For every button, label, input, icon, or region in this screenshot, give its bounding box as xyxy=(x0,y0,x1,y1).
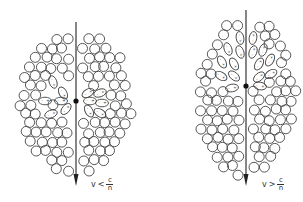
svg-text:-: - xyxy=(236,48,241,52)
atom-circle xyxy=(21,108,31,118)
atom-circle xyxy=(19,91,29,101)
panel-v-greater-than-c-over-n: -+-+-+-+-+-+-+-+-+-+-+-+-+-+-+-+ xyxy=(195,10,300,186)
atom-circle xyxy=(201,76,211,86)
svg-text:+: + xyxy=(221,74,226,80)
atom-circle xyxy=(265,95,275,105)
atom-circle xyxy=(275,41,285,51)
svg-text:-: - xyxy=(266,73,270,78)
svg-text:-: - xyxy=(250,39,255,42)
atom-circle xyxy=(265,133,275,143)
atom-circle xyxy=(233,96,243,106)
svg-text:+: + xyxy=(51,82,57,87)
svg-text:-: - xyxy=(41,98,43,103)
atom-circle xyxy=(208,142,218,152)
atom-circle xyxy=(222,21,232,31)
atom-circle xyxy=(222,114,232,124)
atom-circle xyxy=(217,142,227,152)
atom-circle xyxy=(286,114,296,124)
atom-circle xyxy=(196,124,206,134)
atom-circle xyxy=(207,106,217,116)
atom-circle xyxy=(24,62,34,72)
atom-circle xyxy=(53,128,63,138)
atom-circle xyxy=(36,118,46,128)
atom-circle xyxy=(84,166,94,176)
atom-circle xyxy=(259,162,269,172)
arrowhead-icon xyxy=(74,174,79,186)
atom-circle xyxy=(255,22,265,32)
polarized-atom: -+ xyxy=(215,54,228,69)
atom-circle xyxy=(25,80,35,90)
atom-circle xyxy=(63,34,73,44)
atom-circle xyxy=(196,68,206,78)
svg-text:+: + xyxy=(257,59,263,64)
atom-circle xyxy=(233,21,243,31)
svg-text:-: - xyxy=(266,60,271,64)
atom-circle xyxy=(83,72,93,82)
atom-circle xyxy=(31,146,41,156)
atom-circle xyxy=(48,138,58,148)
svg-text:-: - xyxy=(230,72,235,77)
atom-circle xyxy=(271,104,281,114)
svg-text:-: - xyxy=(83,92,87,97)
medium-atoms xyxy=(195,21,300,181)
polarized-atom: -+ xyxy=(263,52,276,67)
atom-circle xyxy=(104,71,114,81)
atom-circle xyxy=(30,52,40,62)
svg-text:+: + xyxy=(88,111,94,116)
polarized-atom: -+ xyxy=(253,81,267,91)
atom-circle xyxy=(281,124,291,134)
atom-circle xyxy=(79,118,89,128)
atom-circle xyxy=(90,44,100,54)
atom-circle xyxy=(80,137,90,147)
svg-text:-: - xyxy=(57,98,59,103)
atom-circle xyxy=(212,40,222,50)
svg-text:+: + xyxy=(258,72,264,78)
polarized-atom: -+ xyxy=(235,31,245,45)
comparison-operator: < xyxy=(98,180,105,189)
svg-text:+: + xyxy=(238,39,244,43)
atom-circle xyxy=(57,137,67,147)
svg-text:-: - xyxy=(254,76,259,81)
atom-circle xyxy=(275,132,285,142)
atom-circle xyxy=(78,43,88,53)
denominator: n xyxy=(108,185,112,192)
svg-text:+: + xyxy=(65,104,71,110)
svg-text:+: + xyxy=(46,98,49,103)
atom-circle xyxy=(96,146,106,156)
polarized-atom: -+ xyxy=(247,45,259,60)
svg-text:-: - xyxy=(96,109,100,114)
atom-circle xyxy=(117,108,127,118)
atom-circle xyxy=(42,52,52,62)
atom-circle xyxy=(207,49,217,59)
svg-text:+: + xyxy=(226,49,232,54)
polarized-atom: -+ xyxy=(39,97,52,105)
denominator: n xyxy=(279,185,283,192)
atom-circle xyxy=(254,95,264,105)
atom-circle xyxy=(115,53,125,63)
atom-circle xyxy=(219,30,229,40)
atom-circle xyxy=(110,117,120,127)
polarized-atom: -+ xyxy=(55,97,68,105)
cherenkov-diagram: -+-+-+-+-+-+-+-+-+-+-+-+ -+-+-+-+-+-+-+-… xyxy=(0,0,303,202)
atom-circle xyxy=(223,96,233,106)
svg-text:+: + xyxy=(271,69,276,75)
condition-label-left: v < c n xyxy=(91,177,113,192)
polarized-atom: -+ xyxy=(44,108,59,120)
atom-circle xyxy=(281,69,291,79)
atom-circle xyxy=(254,152,264,162)
polarized-atom: -+ xyxy=(227,69,242,83)
svg-text:+: + xyxy=(268,55,274,60)
polarized-atom: -+ xyxy=(59,102,73,117)
svg-text:-: - xyxy=(218,57,223,61)
svg-text:-: - xyxy=(59,88,64,92)
svg-text:-: - xyxy=(224,45,229,49)
svg-text:+: + xyxy=(91,98,94,103)
svg-text:-: - xyxy=(249,53,254,57)
atom-circle xyxy=(79,156,89,166)
panel-v-less-than-c-over-n: -+-+-+-+-+-+-+-+-+-+-+-+ xyxy=(15,22,136,186)
atom-circle xyxy=(31,90,41,100)
polarized-atom: -+ xyxy=(234,45,246,60)
atom-circle xyxy=(64,54,74,64)
atom-circle xyxy=(36,81,46,91)
svg-text:+: + xyxy=(88,88,93,94)
